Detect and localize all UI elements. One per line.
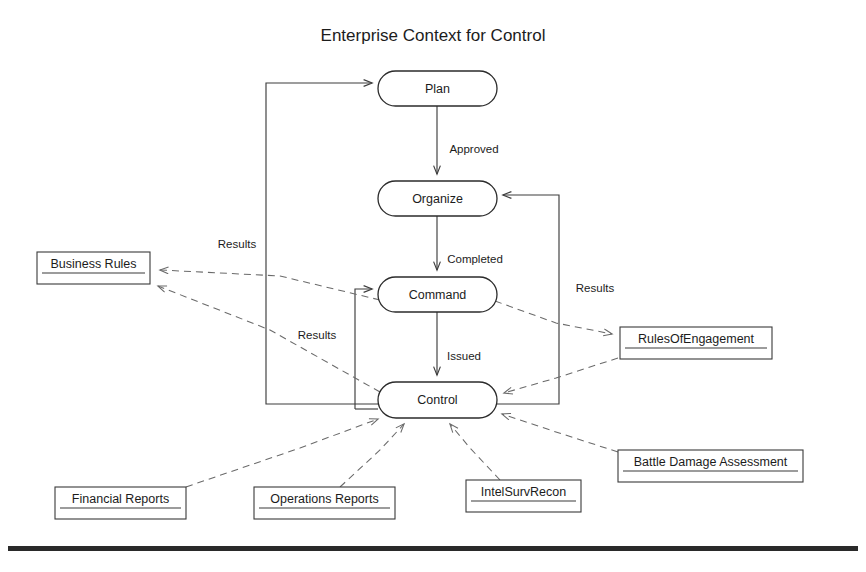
- feedback-control-to-plan: [266, 83, 378, 404]
- dependency-financial-reports-to-control: [186, 419, 378, 487]
- object-label-business-rules: Business Rules: [50, 257, 136, 271]
- object-node-business-rules[interactable]: Business Rules: [37, 252, 150, 284]
- dependency-operations-reports-to-control: [340, 424, 404, 487]
- activity-label-plan: Plan: [425, 82, 450, 96]
- enterprise-context-diagram: Enterprise Context for Control Results R…: [0, 0, 866, 572]
- dependency-control-to-business-rules: [158, 286, 380, 392]
- dependency-battle-damage-assessment-to-control: [502, 414, 618, 452]
- diagram-page: Enterprise Context for Control Results R…: [0, 0, 866, 572]
- object-node-rules-of-engagement[interactable]: RulesOfEngagement: [620, 327, 772, 359]
- object-node-operations-reports[interactable]: Operations Reports: [254, 487, 395, 519]
- activity-node-control[interactable]: Control: [378, 382, 497, 418]
- dependency-rules-of-engagement-to-control: [504, 358, 618, 393]
- feedback-label-control-to-command: Results: [298, 329, 337, 341]
- feedback-control-to-command-upper: [355, 289, 372, 409]
- activity-label-control: Control: [417, 393, 457, 407]
- object-node-battle-damage-assessment[interactable]: Battle Damage Assessment: [618, 450, 803, 482]
- dependency-command-to-rules-of-engagement: [495, 301, 612, 334]
- feedback-label-control-to-organize: Results: [576, 282, 615, 294]
- object-label-rules-of-engagement: RulesOfEngagement: [638, 332, 755, 346]
- activity-node-command[interactable]: Command: [378, 277, 497, 312]
- feedback-label-control-to-plan: Results: [218, 238, 257, 250]
- feedback-control-to-organize: [497, 195, 559, 404]
- activity-node-plan[interactable]: Plan: [378, 71, 497, 106]
- object-label-intel-surv-recon: IntelSurvRecon: [481, 485, 567, 499]
- transition-label-completed: Completed: [447, 253, 503, 265]
- footer-divider: [8, 546, 858, 551]
- dependency-command-to-business-rules: [160, 270, 380, 300]
- activity-node-organize[interactable]: Organize: [378, 181, 497, 216]
- page-title: Enterprise Context for Control: [321, 26, 546, 45]
- object-node-intel-surv-recon[interactable]: IntelSurvRecon: [466, 480, 581, 512]
- object-label-operations-reports: Operations Reports: [270, 492, 378, 506]
- activity-label-command: Command: [409, 288, 467, 302]
- object-node-financial-reports[interactable]: Financial Reports: [55, 487, 186, 519]
- transition-label-approved: Approved: [449, 143, 498, 155]
- activity-label-organize: Organize: [412, 192, 463, 206]
- transition-label-issued: Issued: [447, 350, 481, 362]
- object-label-financial-reports: Financial Reports: [72, 492, 169, 506]
- object-label-battle-damage-assessment: Battle Damage Assessment: [634, 455, 788, 469]
- dependency-intel-surv-recon-to-control: [450, 424, 500, 480]
